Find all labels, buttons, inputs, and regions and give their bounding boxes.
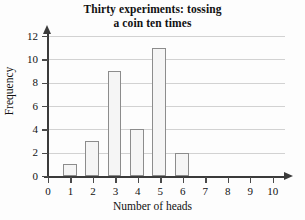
bar (63, 164, 77, 176)
x-axis-tick (183, 177, 184, 183)
x-axis-tick-label: 8 (217, 186, 239, 197)
bar (152, 48, 166, 176)
gridline (48, 129, 285, 130)
y-axis-tick (42, 36, 48, 37)
chart-title-line-1: Thirty experiments: tossing (0, 3, 305, 17)
x-axis-tick-label: 9 (239, 186, 261, 197)
x-axis-tick-label: 3 (104, 186, 126, 197)
y-axis-tick (42, 106, 48, 107)
histogram-figure: Thirty experiments: tossing a coin ten t… (0, 0, 305, 220)
x-axis-tick-label: 5 (149, 186, 171, 197)
y-axis-tick-label: 2 (16, 147, 38, 158)
gridline (48, 83, 285, 84)
x-axis-title: Number of heads (0, 200, 305, 212)
bar (130, 129, 144, 176)
x-axis-tick (160, 177, 161, 183)
x-axis-tick-label: 4 (127, 186, 149, 197)
x-axis-tick (250, 177, 251, 183)
y-axis-tick-label: 12 (16, 31, 38, 42)
bar (175, 153, 189, 176)
y-axis-line (47, 33, 49, 177)
x-axis-tick (138, 177, 139, 183)
gridline (48, 59, 285, 60)
y-axis-tick (42, 153, 48, 154)
y-axis-tick (42, 129, 48, 130)
x-axis-tick-label: 6 (172, 186, 194, 197)
y-axis-tick-label: 10 (16, 54, 38, 65)
x-axis-tick-label: 2 (82, 186, 104, 197)
x-axis-tick (205, 177, 206, 183)
y-axis-arrow-icon (43, 25, 51, 34)
x-axis-tick-label: 7 (194, 186, 216, 197)
x-axis-tick (70, 177, 71, 183)
gridline (48, 106, 285, 107)
x-axis-tick (93, 177, 94, 183)
x-axis-tick (115, 177, 116, 183)
bar (108, 71, 122, 176)
plot-area (48, 36, 285, 176)
y-axis-tick (42, 83, 48, 84)
y-axis-title: Frequency (3, 51, 15, 131)
bar (85, 141, 99, 176)
x-axis-tick-label: 10 (262, 186, 284, 197)
y-axis-tick-label: 0 (16, 171, 38, 182)
x-axis-tick (48, 177, 49, 183)
x-axis-tick (228, 177, 229, 183)
x-axis-arrow-icon (284, 172, 293, 180)
gridline (48, 36, 285, 37)
x-axis-tick-label: 1 (59, 186, 81, 197)
gridline (48, 153, 285, 154)
x-axis-tick (273, 177, 274, 183)
y-axis-tick-label: 6 (16, 101, 38, 112)
y-axis-tick-label: 4 (16, 124, 38, 135)
x-axis-tick-label: 0 (37, 186, 59, 197)
y-axis-tick-label: 8 (16, 77, 38, 88)
y-axis-tick (42, 59, 48, 60)
